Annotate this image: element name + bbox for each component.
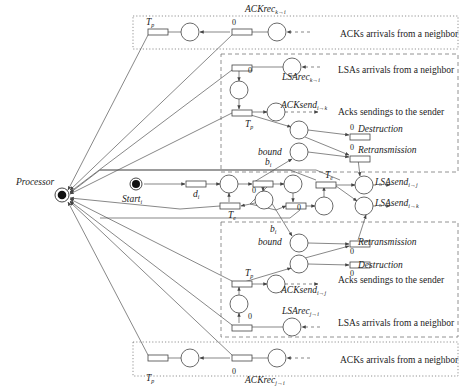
place (284, 175, 302, 193)
region-caption: Acks sendings to the sender (338, 107, 445, 117)
place (268, 23, 286, 41)
place (230, 81, 248, 99)
transition (232, 325, 252, 331)
arcs (68, 32, 390, 358)
node-label: bound (258, 237, 282, 247)
transition (350, 156, 370, 162)
node-label: Retransmission (357, 145, 417, 155)
captions: LSAs arrivals from a neighborAcks sendin… (338, 65, 455, 328)
node-label: ACKrecj→i (244, 375, 285, 386)
transition (350, 134, 370, 140)
transition (232, 29, 252, 35)
place (355, 176, 373, 194)
start-token (132, 180, 140, 188)
node-label: LSAsendi→k (374, 198, 419, 209)
place (181, 349, 199, 367)
place (290, 255, 308, 273)
place (268, 349, 286, 367)
labels: ACKreck→iTp0LSAreck→i0ACKsendi→kTp0Destr… (146, 4, 419, 386)
place (290, 234, 308, 252)
node-label: Tp (146, 373, 154, 384)
node-label: Te (228, 210, 236, 221)
node-label: bi (265, 157, 272, 168)
node-label: Tp (146, 17, 154, 28)
transition (232, 110, 252, 116)
node-label: Destruction (357, 124, 403, 134)
region-caption: LSAs arrivals from a neighbor (338, 318, 455, 328)
place (255, 191, 273, 209)
place (315, 197, 333, 215)
node-label: ACKsendi→k (280, 100, 328, 111)
place (290, 121, 308, 139)
place (181, 23, 199, 41)
node-label: Te (325, 170, 333, 181)
transition (186, 181, 206, 187)
processor-token (58, 191, 67, 200)
region-caption: ACKs arrivals from a neighbor (340, 355, 459, 365)
node-label: ACKreck→i (244, 4, 286, 15)
place (230, 295, 248, 313)
node-label: bound (258, 147, 282, 157)
node-label: bi (270, 224, 277, 235)
node-label: Retransmission (357, 237, 417, 247)
node-label: 0 (350, 143, 354, 152)
place (283, 318, 301, 336)
node-label: LSArecj→i (281, 306, 319, 317)
node-label: 0 (232, 18, 236, 27)
node-label: LSAsendi→j (374, 177, 418, 188)
node-label: 0 (350, 123, 354, 132)
transition (220, 203, 240, 209)
node-label: ACKsendi→j (280, 285, 327, 296)
region-caption: Acks sendings to the sender (338, 275, 445, 285)
node-label: Tp (245, 268, 253, 279)
place (355, 197, 373, 215)
node-label: 0 (232, 367, 236, 376)
node-label: 0 (252, 186, 256, 195)
processor-label: Processor (15, 177, 54, 187)
node-label: 0 (248, 312, 252, 321)
transition (232, 281, 252, 287)
transition (232, 355, 252, 361)
transition (286, 203, 306, 209)
node-label: di (193, 189, 200, 200)
place (220, 175, 238, 193)
region-caption: ACKs arrivals from a neighbor (340, 29, 459, 39)
transition (316, 182, 336, 188)
place (290, 143, 308, 161)
node-label: LSAreck→i (281, 72, 320, 83)
node-label: 0 (297, 203, 301, 212)
transition (253, 181, 273, 187)
region-caption: LSAs arrivals from a neighbor (338, 65, 455, 75)
transition (148, 355, 168, 361)
node-label: Destruction (357, 260, 403, 270)
transition (148, 29, 168, 35)
start-label: Starti (122, 194, 142, 205)
node-label: Tp (245, 119, 253, 130)
node-label: 0 (248, 66, 252, 75)
node-label: 0 (350, 247, 354, 256)
petri-net-diagram: ACKs arrivals from a neighborACKs arriva… (0, 0, 475, 392)
